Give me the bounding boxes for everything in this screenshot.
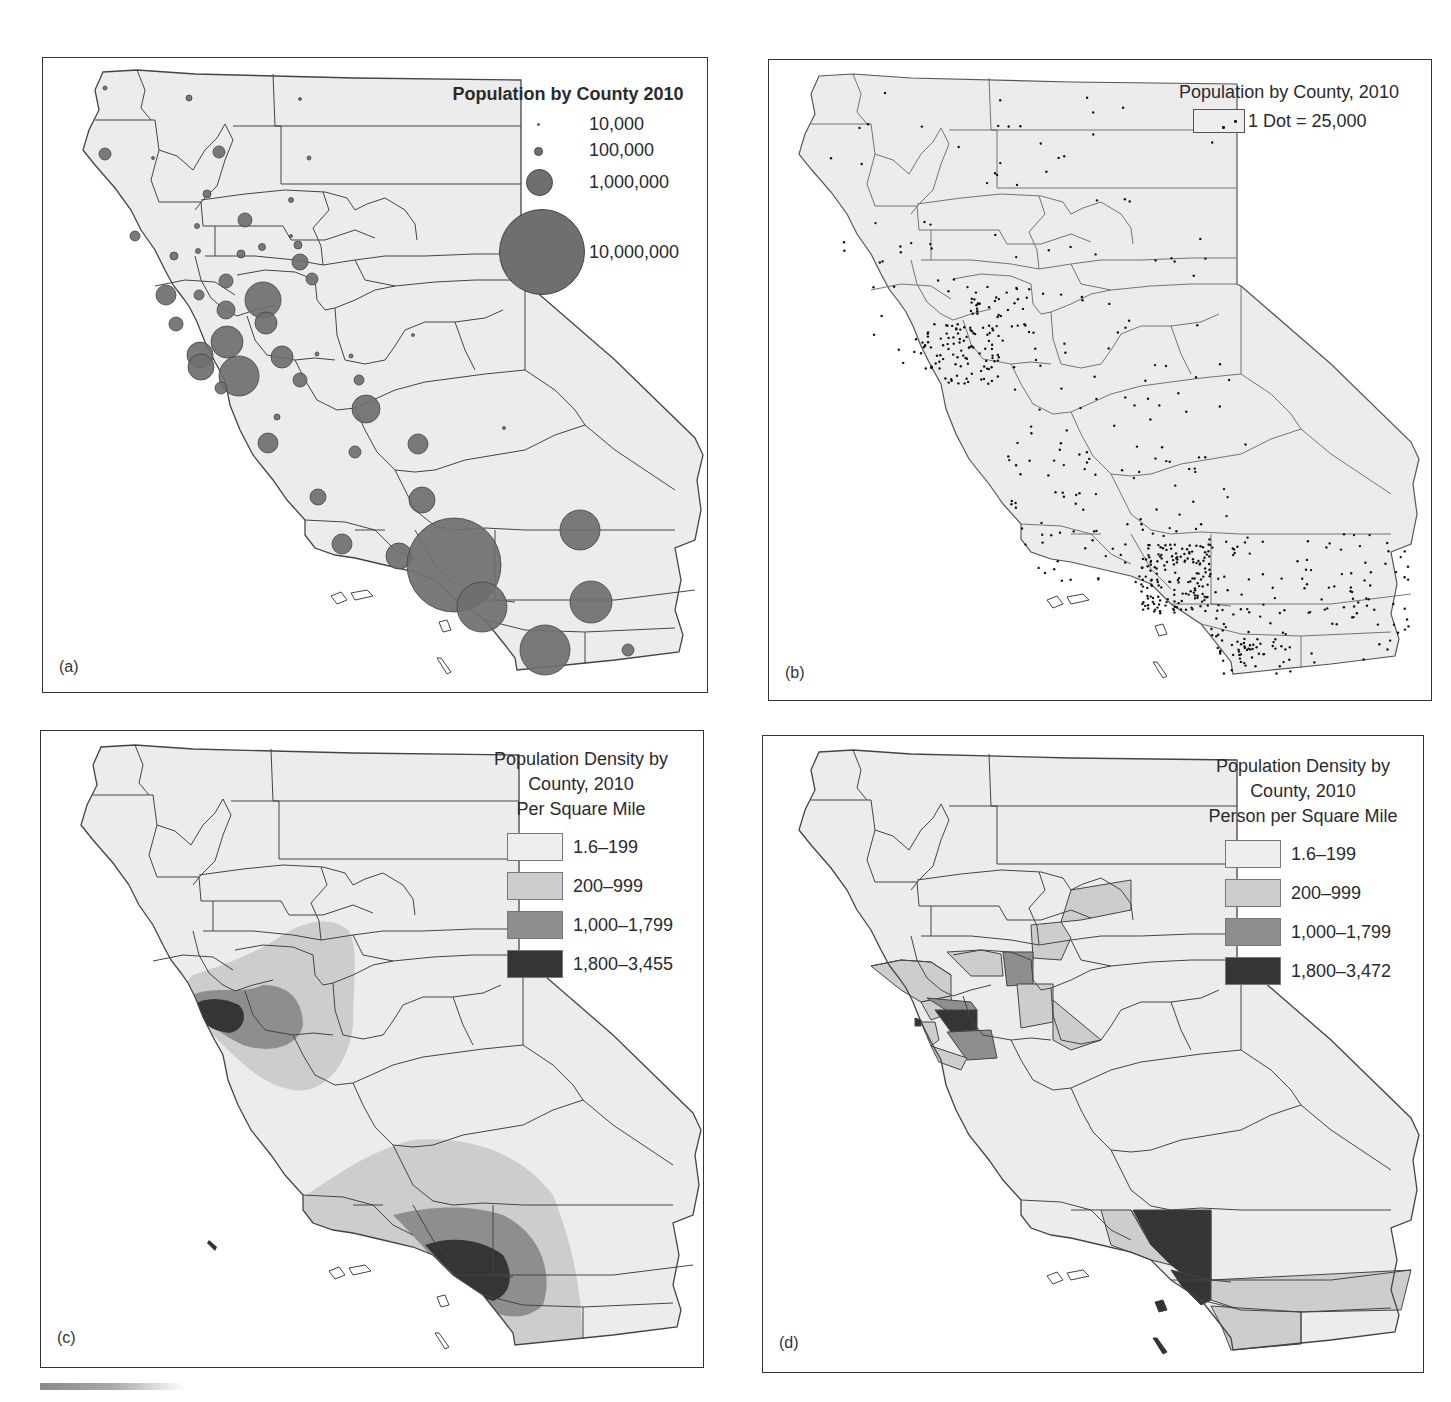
dot-legend-label: 1 Dot = 25,000 bbox=[1248, 111, 1367, 132]
legend-symbol-10000 bbox=[537, 123, 540, 126]
legend-title: Population by County, 2010 bbox=[1159, 80, 1419, 105]
panel-label-d: (d) bbox=[779, 1334, 799, 1352]
legend-label-10000000: 10,000,000 bbox=[589, 242, 679, 263]
legend-symbol-100000 bbox=[534, 147, 543, 156]
legend-class-1: 1.6–199 bbox=[507, 833, 691, 861]
dot-density-legend: Population by County, 2010 1 Dot = 25,00… bbox=[1159, 80, 1419, 133]
panel-label-c: (c) bbox=[57, 1329, 76, 1347]
legend-symbol-10000000 bbox=[499, 209, 585, 295]
legend-title: Population by County 2010 bbox=[433, 82, 703, 107]
choropleth-legend: Population Density by County, 2010 Perso… bbox=[1183, 754, 1423, 985]
panel-a-proportional-symbol-map: Population by County 2010 10,000 100,000… bbox=[42, 57, 708, 693]
dot-legend-row: 1 Dot = 25,000 bbox=[1159, 109, 1419, 133]
legend-label-10000: 10,000 bbox=[589, 114, 644, 135]
legend-class-3: 1,000–1,799 bbox=[507, 911, 691, 939]
legend-title-line-2: County, 2010 bbox=[1183, 779, 1423, 804]
panel-c-isopleth-map: Population Density by County, 2010 Per S… bbox=[40, 730, 704, 1368]
california-map bbox=[769, 60, 1433, 702]
legend-title-line-2: County, 2010 bbox=[471, 772, 691, 797]
legend-class-4: 1,800–3,472 bbox=[1225, 957, 1423, 985]
panel-label-a: (a) bbox=[59, 658, 79, 676]
legend-label-100000: 100,000 bbox=[589, 140, 654, 161]
legend-class-1: 1.6–199 bbox=[1225, 840, 1423, 868]
legend-class-2: 200–999 bbox=[507, 872, 691, 900]
legend-label-1000000: 1,000,000 bbox=[589, 172, 669, 193]
legend-title-line-1: Population Density by bbox=[471, 747, 691, 772]
isopleth-legend: Population Density by County, 2010 Per S… bbox=[471, 747, 691, 978]
legend-title-line-3: Person per Square Mile bbox=[1183, 804, 1423, 829]
legend-class-4: 1,800–3,455 bbox=[507, 950, 691, 978]
dot-legend-swatch bbox=[1193, 109, 1245, 133]
island-shaded bbox=[207, 1240, 217, 1251]
panel-b-dot-density-map: Population by County, 2010 1 Dot = 25,00… bbox=[768, 59, 1432, 701]
proportional-symbol-legend: Population by County 2010 10,000 100,000… bbox=[433, 82, 703, 312]
decorative-gradient-bar bbox=[40, 1383, 185, 1390]
legend-title-line-1: Population Density by bbox=[1183, 754, 1423, 779]
legend-class-2: 200–999 bbox=[1225, 879, 1423, 907]
legend-class-3: 1,000–1,799 bbox=[1225, 918, 1423, 946]
panel-label-b: (b) bbox=[785, 664, 805, 682]
legend-symbol-1000000 bbox=[526, 169, 553, 196]
panel-d-choropleth-map: Population Density by County, 2010 Perso… bbox=[762, 735, 1424, 1373]
legend-title-line-3: Per Square Mile bbox=[471, 797, 691, 822]
